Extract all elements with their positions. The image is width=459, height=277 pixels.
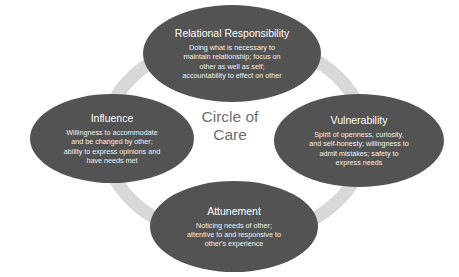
node-body: Noticing needs of other; attentive to an… <box>187 221 281 249</box>
node-body-line: other's experience <box>187 239 281 248</box>
node-body-line: ability to express opinions and <box>64 147 160 156</box>
node-body-line: attentive to and responsive to <box>187 230 281 239</box>
node-vulnerability[interactable]: Vulnerability Spirit of openness, curios… <box>274 94 444 187</box>
circle-of-care-diagram: Relational Responsibility Doing what is … <box>0 0 459 277</box>
node-relational-responsibility[interactable]: Relational Responsibility Doing what is … <box>143 5 321 102</box>
node-body-line: Noticing needs of other; <box>187 221 281 230</box>
node-title: Relational Responsibility <box>175 27 289 40</box>
node-title: Influence <box>91 112 134 125</box>
node-body-line: accountability to effect on other <box>182 71 281 80</box>
node-body-line: other as well as self; <box>182 62 281 71</box>
node-body-line: express needs <box>309 158 408 167</box>
center-label-line2: Care <box>172 126 288 144</box>
node-body-line: Spirit of openness, curiosity, <box>309 130 408 139</box>
node-influence[interactable]: Influence Willingness to accommodate and… <box>30 94 194 183</box>
node-attunement[interactable]: Attunement Noticing needs of other; atte… <box>150 181 318 272</box>
node-body-line: and self-honesty; willingness to <box>309 139 408 148</box>
node-body-line: have needs met <box>64 156 160 165</box>
node-body-line: Willingness to accommodate <box>64 128 160 137</box>
center-label-line1: Circle of <box>172 108 288 126</box>
node-title: Vulnerability <box>331 114 388 127</box>
node-body: Willingness to accommodate and be change… <box>64 128 160 165</box>
node-body-line: maintain relationship; focus on <box>182 52 281 61</box>
center-label: Circle of Care <box>172 108 288 144</box>
node-title: Attunement <box>207 205 261 218</box>
node-body-line: Doing what is necessary to <box>182 43 281 52</box>
node-body-line: admit mistakes; safety to <box>309 149 408 158</box>
node-body: Spirit of openness, curiosity, and self-… <box>309 130 408 167</box>
node-body: Doing what is necessary to maintain rela… <box>182 43 281 80</box>
node-body-line: and be changed by other; <box>64 137 160 146</box>
